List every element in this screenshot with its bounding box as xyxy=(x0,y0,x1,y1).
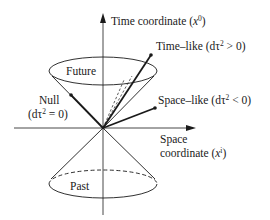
past-cone-left-edge xyxy=(51,128,103,179)
space-like-endpoint-dot xyxy=(153,106,157,110)
past-region-label: Past xyxy=(70,180,90,192)
space-axis-label-line2: coordinate (xi) xyxy=(160,146,226,160)
null-label-line1: Null xyxy=(39,94,59,106)
past-cone-right-edge xyxy=(103,128,155,179)
light-cone-diagram: Time coordinate (x0) Time–like (dτ2 > 0)… xyxy=(0,0,270,220)
time-like-vector xyxy=(103,55,151,128)
time-like-label: Time–like (dτ2 > 0) xyxy=(156,39,246,53)
time-axis-arrowhead-icon xyxy=(100,13,106,23)
null-label-line2: (dτ2 = 0) xyxy=(28,107,68,121)
time-axis-label: Time coordinate (x0) xyxy=(111,14,206,28)
null-endpoint-dot xyxy=(69,93,73,97)
space-like-label: Space–like (dτ2 < 0) xyxy=(158,93,251,107)
time-like-endpoint-dot xyxy=(149,53,153,57)
space-axis-label-line1: Space xyxy=(160,133,187,146)
space-axis-arrowhead-icon xyxy=(186,125,196,131)
future-region-label: Future xyxy=(66,65,96,77)
null-vector xyxy=(71,95,103,128)
origin-point xyxy=(102,127,105,130)
